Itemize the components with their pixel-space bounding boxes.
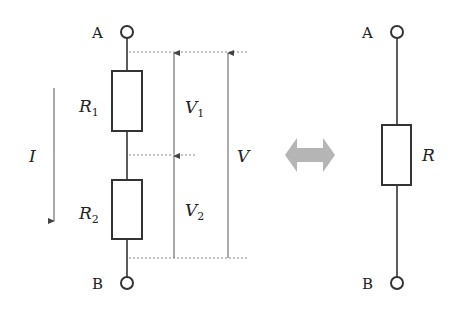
voltage-v2-label: V2: [185, 200, 204, 223]
voltage-v-label: V: [237, 146, 251, 166]
resistor-r1-icon: [112, 71, 142, 131]
resistor-r-icon: [382, 125, 411, 185]
resistor-r2-icon: [112, 180, 142, 239]
terminal-a-icon: [391, 26, 403, 38]
circuit-diagram: A R1 R2 B V1 V2 V I A: [0, 0, 460, 317]
voltage-v1-label: V1: [185, 97, 204, 120]
terminal-a-label: A: [91, 24, 103, 42]
resistor-r1-label: R1: [78, 96, 99, 119]
resistor-r2-label: R2: [78, 203, 99, 226]
terminal-b-icon: [391, 277, 403, 289]
terminal-b-icon: [121, 277, 133, 289]
terminal-b-label: B: [92, 275, 103, 293]
current-label: I: [28, 146, 36, 166]
equivalence-double-arrow-icon: [285, 138, 335, 172]
right-circuit: A R B: [361, 24, 435, 293]
resistor-r-label: R: [421, 145, 435, 165]
terminal-b-label: B: [362, 275, 373, 293]
terminal-a-icon: [121, 26, 133, 38]
left-circuit: A R1 R2 B V1 V2 V I: [28, 24, 251, 293]
terminal-a-label: A: [361, 24, 373, 42]
